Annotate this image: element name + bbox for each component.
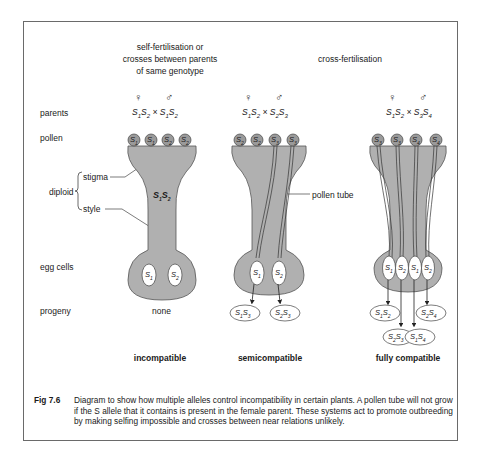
diploid-bracket	[75, 172, 82, 210]
egg-label: S2	[398, 264, 406, 275]
pollen-label: S3	[374, 136, 382, 147]
label-semicompatible: semicompatible	[220, 353, 320, 363]
pistil-semicompatible	[232, 146, 307, 295]
pollen-label: S3	[289, 136, 297, 147]
progeny-label: S2S3	[275, 309, 291, 320]
egg-label: S1	[385, 264, 393, 275]
egg-label: S1	[253, 269, 261, 280]
style-genotype: S1S2	[153, 191, 171, 203]
pollen-label: S4	[432, 136, 440, 147]
pollen-label: S2	[253, 136, 261, 147]
pollen-label: S2	[164, 136, 172, 147]
pollen-label: S2	[236, 136, 244, 147]
egg-label: S1	[411, 264, 419, 275]
pollen-label: S3	[271, 136, 279, 147]
caption-text: Diagram to show how multiple alleles con…	[74, 395, 459, 427]
egg-label: S2	[171, 271, 179, 282]
pollen-label: S1	[130, 136, 138, 147]
label-incompatible: incompatible	[110, 353, 210, 363]
pollen-label: S1	[147, 136, 155, 147]
progeny-label: S1S3	[235, 309, 251, 320]
pollen-tube-label: pollen tube	[312, 190, 354, 200]
progeny-label: S2S4	[421, 309, 437, 320]
figure-number: Fig 7.6	[34, 395, 60, 406]
label-fully-compatible: fully compatible	[358, 353, 458, 363]
pollen-label: S4	[412, 136, 420, 147]
progeny-none: none	[152, 306, 171, 316]
pollen-label: S2	[181, 136, 189, 147]
pollen-label: S3	[393, 136, 401, 147]
egg-label: S2	[424, 264, 432, 275]
progeny-label: S1S2	[375, 309, 391, 320]
egg-label: S1	[145, 271, 153, 282]
pistil-incompatible	[128, 146, 197, 300]
progeny-label: S2S3	[388, 333, 404, 344]
progeny-label: S1S4	[410, 333, 426, 344]
egg-label: S2	[275, 269, 283, 280]
